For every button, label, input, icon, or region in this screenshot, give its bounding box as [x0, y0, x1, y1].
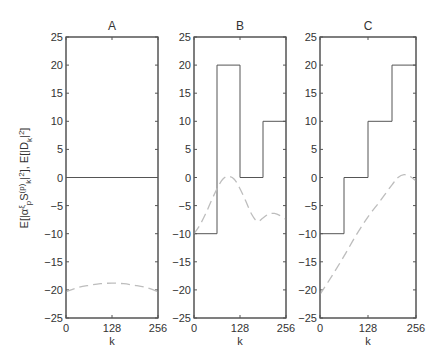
y-tick-label: −15 — [44, 256, 63, 268]
y-tick-label: −5 — [50, 200, 63, 212]
y-tick-label: 10 — [305, 115, 317, 127]
y-tick-label: −20 — [172, 284, 191, 296]
y-tick-label: −10 — [298, 228, 317, 240]
x-tick-label: 0 — [191, 322, 197, 334]
subplot-title: C — [364, 19, 373, 33]
y-tick-label: 0 — [311, 172, 317, 184]
y-tick-label: −25 — [172, 312, 191, 324]
y-tick-label: 0 — [185, 172, 191, 184]
subplot-a: 2520151050−5−10−15−20−250128256kA — [44, 19, 167, 347]
x-tick-label: 0 — [317, 322, 323, 334]
y-tick-label: −5 — [304, 200, 317, 212]
chart-figure: 2520151050−5−10−15−20−250128256kA2520151… — [0, 0, 446, 362]
y-axis-label: E[|αξpS(p)k|2], E[|Dk|2] — [17, 128, 34, 229]
x-axis-label: k — [109, 335, 115, 347]
y-tick-label: −15 — [298, 256, 317, 268]
subplot-b: 2520151050−5−10−15−20−250128256kB — [172, 19, 295, 347]
subplot-c: 2520151050−5−10−15−20−250128256kC — [298, 19, 425, 347]
y-tick-label: 25 — [305, 31, 317, 43]
y-tick-label: 0 — [57, 172, 63, 184]
y-tick-label: 5 — [185, 143, 191, 155]
subplot-title: B — [236, 19, 244, 33]
y-tick-label: 10 — [179, 115, 191, 127]
x-tick-label: 128 — [103, 322, 121, 334]
y-tick-label: 20 — [305, 59, 317, 71]
x-tick-label: 128 — [359, 322, 377, 334]
y-tick-label: 20 — [51, 59, 63, 71]
x-tick-label: 256 — [149, 322, 167, 334]
y-tick-label: −5 — [178, 200, 191, 212]
subplot-title: A — [108, 19, 116, 33]
x-tick-label: 256 — [277, 322, 295, 334]
y-tick-label: 25 — [179, 31, 191, 43]
y-tick-label: 25 — [51, 31, 63, 43]
x-axis-label: k — [365, 335, 371, 347]
y-tick-label: −25 — [44, 312, 63, 324]
y-tick-label: 5 — [311, 143, 317, 155]
y-tick-label: −10 — [44, 228, 63, 240]
y-tick-label: 20 — [179, 59, 191, 71]
y-tick-label: 5 — [57, 143, 63, 155]
y-tick-label: 15 — [51, 87, 63, 99]
y-tick-label: 10 — [51, 115, 63, 127]
y-tick-label: 15 — [305, 87, 317, 99]
y-tick-label: −15 — [172, 256, 191, 268]
y-tick-label: −25 — [298, 312, 317, 324]
x-tick-label: 0 — [63, 322, 69, 334]
x-axis-label: k — [237, 335, 243, 347]
x-tick-label: 128 — [231, 322, 249, 334]
x-tick-label: 256 — [407, 322, 425, 334]
y-tick-label: −20 — [298, 284, 317, 296]
y-tick-label: −20 — [44, 284, 63, 296]
y-tick-label: 15 — [179, 87, 191, 99]
y-tick-label: −10 — [172, 228, 191, 240]
